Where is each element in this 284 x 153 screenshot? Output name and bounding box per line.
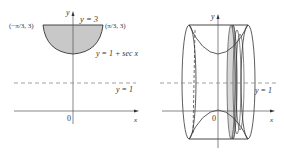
x-axis-arrow-icon: [270, 110, 275, 113]
y-axis-label: y: [65, 8, 70, 17]
left-point-label: (−π/3, 3): [9, 22, 34, 30]
origin-label: 0: [67, 114, 71, 123]
x-axis-arrow-icon: [134, 110, 139, 113]
curve-label: y = 1 + sec x: [95, 49, 139, 58]
right-panel: y x 0 y = 1: [160, 12, 276, 148]
lower-curve: [189, 110, 248, 139]
origin-label: 0: [212, 114, 216, 123]
y-axis-label: y: [210, 12, 215, 21]
dashed-line-label: y = 1: [115, 85, 133, 94]
washer-inner: [227, 25, 235, 139]
x-axis-label: x: [133, 116, 138, 124]
top-line-label: y = 3: [79, 14, 98, 24]
upper-curve: [189, 25, 248, 54]
right-point-label: (π/3, 3): [105, 22, 126, 30]
y-axis-arrow-icon: [217, 14, 220, 19]
left-panel: y x 0 y = 1 y = 3 (−π/3, 3) (π/3, 3) y =…: [9, 8, 139, 124]
diagram-canvas: y x 0 y = 1 y = 3 (−π/3, 3) (π/3, 3) y =…: [0, 0, 284, 153]
x-axis-label: x: [269, 116, 274, 124]
outer-right-ellipse: [241, 25, 255, 139]
y-axis-arrow-icon: [72, 11, 75, 16]
dashed-line-label: y = 1: [254, 86, 272, 95]
